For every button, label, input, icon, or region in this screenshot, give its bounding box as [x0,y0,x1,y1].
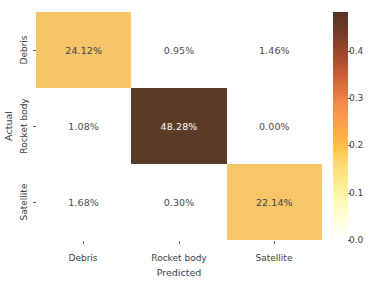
heatmap-cell-1-1: 48.28% [131,88,226,164]
y-tick-mark-0 [33,50,36,51]
heatmap-cell-value: 24.12% [65,45,102,56]
y-tick-text: Satellite [19,184,29,221]
heatmap-cell-value: 1.46% [259,45,290,56]
x-axis-title: Predicted [157,267,202,278]
x-tick-mark-0 [83,241,84,244]
heatmap-cell-0-1: 0.95% [131,12,226,88]
heatmap-cell-value: 22.14% [256,197,293,208]
x-tick-label-rocket-body: Rocket body [151,253,206,263]
heatmap-cell-value: 0.95% [164,45,195,56]
x-tick-label-debris: Debris [68,253,97,263]
colorbar-gradient [333,12,348,240]
y-tick-text: Debris [19,35,29,64]
heatmap-cell-value: 48.28% [161,121,198,132]
colorbar-tick-label-3: 0.1 [349,188,363,198]
heatmap-cell-1-2: 0.00% [227,88,322,164]
heatmap-cell-value: 0.30% [164,197,195,208]
confusion-matrix-figure: 24.12% 0.95% 1.46% 1.08% 48.28% 0.00% 1.… [0,0,372,290]
heatmap-cell-value: 1.68% [68,197,99,208]
y-tick-mark-1 [33,126,36,127]
heatmap-cell-value: 1.08% [68,121,99,132]
colorbar-tick-label-0: 0.4 [349,46,363,56]
heatmap-cell-0-0: 24.12% [36,12,131,88]
colorbar-tick-label-4: 0.0 [349,235,363,245]
colorbar-tick-label-1: 0.3 [349,93,363,103]
y-tick-text: Rocket body [19,98,29,153]
x-tick-label-satellite: Satellite [256,253,293,263]
x-tick-mark-2 [274,241,275,244]
x-tick-mark-1 [179,241,180,244]
heatmap-cell-1-0: 1.08% [36,88,131,164]
colorbar-tick-label-2: 0.2 [349,140,363,150]
y-axis-title: Actual [3,111,14,141]
heatmap-cell-2-2: 22.14% [227,164,322,240]
colorbar: 0.4 0.3 0.2 0.1 0.0 [333,12,348,240]
heatmap-cell-2-0: 1.68% [36,164,131,240]
y-tick-mark-2 [33,202,36,203]
heatmap-cell-value: 0.00% [259,121,290,132]
heatmap-cell-2-1: 0.30% [131,164,226,240]
heatmap-cell-0-2: 1.46% [227,12,322,88]
heatmap-plot-area: 24.12% 0.95% 1.46% 1.08% 48.28% 0.00% 1.… [36,12,322,240]
